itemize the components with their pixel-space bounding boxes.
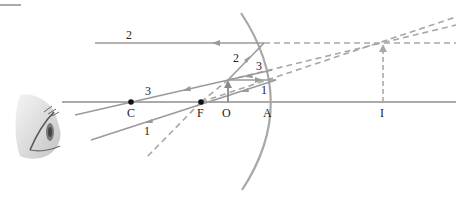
- ray-label-1: 1: [144, 124, 150, 138]
- label-i: I: [380, 106, 384, 120]
- point-c: [128, 99, 134, 105]
- ray-label-2-reflected: 2: [233, 51, 239, 65]
- label-f: F: [197, 106, 204, 120]
- ray-label-3-reflected: 3: [256, 59, 262, 73]
- ray-label-2-incident: 2: [126, 28, 132, 42]
- label-o: O: [222, 106, 231, 120]
- ray-label-3: 3: [145, 84, 151, 98]
- ray-label-1-reflected: 1: [261, 83, 267, 97]
- ray-diagram: C F O A I 2 2 3 3 1 1: [0, 0, 460, 201]
- label-c: C: [127, 106, 135, 120]
- ray-3: [75, 70, 272, 115]
- label-a: A: [263, 106, 272, 120]
- point-f: [198, 99, 204, 105]
- eye-icon: [16, 94, 61, 159]
- image-arrow: [379, 44, 387, 102]
